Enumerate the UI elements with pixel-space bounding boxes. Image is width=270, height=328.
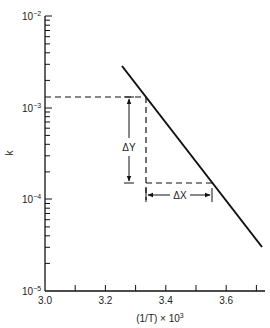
x-tick-label-3.4: 3.4 [159, 295, 173, 306]
y-minor-ticks [45, 20, 50, 263]
x-axis: 3.0 3.2 3.4 3.6 (1/T) × 103 [38, 285, 265, 324]
x-tick-label-3.6: 3.6 [219, 295, 233, 306]
y-tick-label-1e-3: 10−3 [22, 102, 41, 114]
y-axis: 10−2 10−3 10−4 10−5 k [4, 10, 52, 297]
delta-y-annotation: ΔY [122, 97, 136, 183]
delta-y-label: ΔY [122, 142, 136, 153]
x-tick-label-3.0: 3.0 [38, 295, 52, 306]
x-tick-label-3.2: 3.2 [98, 295, 112, 306]
y-axis-label: k [4, 150, 15, 156]
data-line [122, 66, 262, 247]
y-tick-label-1e-4: 10−4 [22, 193, 41, 205]
chart: 10−2 10−3 10−4 10−5 k 3.0 3.2 3.4 3.6 (1… [0, 0, 270, 328]
delta-x-annotation: ΔX [146, 188, 212, 202]
y-tick-label-1e-2: 10−2 [22, 10, 41, 22]
x-axis-label: (1/T) × 103 [136, 312, 184, 324]
delta-x-label: ΔX [173, 190, 187, 201]
